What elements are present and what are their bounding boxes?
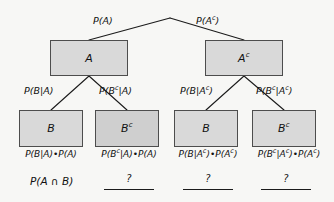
- probability-tree-diagram: P(A) P(Ac) A Ac P(B|A) P(Bc|A) P(B|Ac) P…: [0, 0, 334, 202]
- product-1-second-factor: P(A): [58, 149, 77, 159]
- node-a-base: A: [85, 52, 93, 65]
- product-3-first-factor-a: P(B|A: [179, 149, 203, 159]
- node-bc-2-sup: c: [286, 121, 290, 129]
- product-expression-3: P(B|Ac)•P(Ac): [168, 150, 248, 159]
- product-3-second-factor-b: ): [234, 149, 238, 159]
- node-b-2-base: B: [202, 122, 210, 135]
- product-4-first-factor-mid: |A: [276, 149, 285, 159]
- node-a-label: A: [85, 53, 93, 64]
- edge-label-p-b-given-a: P(B|A): [24, 86, 53, 96]
- product-expression-2: P(Bc|A)•P(A): [89, 150, 169, 159]
- node-b-complement-under-a: Bc: [95, 110, 159, 147]
- edge-a-to-b: [51, 76, 89, 110]
- edge-label-p-a: P(A): [93, 16, 113, 26]
- node-ac-base: A: [238, 52, 246, 65]
- edge-label-p-a-suffix: ): [109, 15, 113, 26]
- product-4-second-factor-a: P(A: [298, 149, 313, 159]
- edge-label-p-bc-given-a-suffix: |A): [119, 85, 132, 96]
- node-b-1-base: B: [47, 122, 55, 135]
- node-b-complement-under-a-complement-label: Bc: [278, 123, 290, 134]
- edge-label-p-bc-given-ac-prefix: P(B: [256, 85, 272, 96]
- answer-blank-3[interactable]: ?: [261, 173, 311, 190]
- answer-blank-2[interactable]: ?: [183, 173, 233, 190]
- edge-label-p-bc-given-ac-mid: |A: [276, 85, 286, 96]
- answer-blank-3-text: ?: [283, 173, 288, 184]
- product-4-first-factor-a: P(B: [258, 149, 273, 159]
- node-a-complement: Ac: [205, 40, 283, 76]
- node-b-complement-under-a-complement: Bc: [252, 110, 316, 147]
- node-b-under-a-complement-label: B: [202, 123, 210, 134]
- edge-label-p-b-given-ac-prefix: P(B|A: [180, 85, 206, 96]
- node-b-under-a-label: B: [47, 123, 55, 134]
- node-a-complement-label: Ac: [238, 53, 250, 64]
- product-1-first-factor: P(B|A): [25, 149, 53, 159]
- node-a: A: [50, 40, 128, 76]
- node-bc-2-base: B: [278, 122, 286, 135]
- node-bc-1-sup: c: [129, 121, 133, 129]
- node-b-under-a: B: [19, 110, 83, 147]
- tree-connectors: [0, 0, 334, 202]
- product-2-first-factor-a: P(B: [101, 149, 116, 159]
- edge-label-p-b-given-ac-suffix: ): [209, 85, 213, 96]
- edge-label-p-b-given-ac: P(B|Ac): [180, 86, 213, 96]
- product-2-first-factor-b: |A): [120, 149, 133, 159]
- edge-label-p-ac-prefix: P(A: [196, 15, 212, 26]
- node-b-under-a-complement: B: [174, 110, 238, 147]
- product-expression-4: P(Bc|Ac)•P(Ac): [246, 150, 332, 159]
- node-b-complement-under-a-label: Bc: [121, 123, 133, 134]
- edge-label-p-bc-given-a: P(Bc|A): [99, 86, 132, 96]
- edge-label-p-ac: P(Ac): [196, 16, 219, 26]
- answer-blank-1-text: ?: [126, 173, 131, 184]
- answer-blank-1[interactable]: ?: [104, 173, 154, 190]
- product-4-second-factor-b: ): [317, 149, 321, 159]
- edge-label-p-bc-given-a-prefix: P(B: [99, 85, 115, 96]
- edge-label-p-bc-given-ac-suffix: ): [289, 85, 293, 96]
- edge-label-p-ac-suffix: ): [216, 15, 220, 26]
- product-expression-1: P(B|A)•P(A): [14, 150, 88, 159]
- node-bc-1-base: B: [121, 122, 129, 135]
- node-ac-sup: c: [246, 51, 250, 59]
- intersection-label: P(A ∩ B): [30, 176, 73, 187]
- answer-blank-2-text: ?: [205, 173, 210, 184]
- edge-label-p-b-given-a-text: P(B|A): [24, 85, 53, 96]
- edge-label-p-a-prefix: P(A: [93, 15, 109, 26]
- product-3-second-factor-a: P(A: [215, 149, 230, 159]
- edge-label-p-bc-given-ac: P(Bc|Ac): [256, 86, 293, 96]
- product-2-second-factor: P(A): [138, 149, 157, 159]
